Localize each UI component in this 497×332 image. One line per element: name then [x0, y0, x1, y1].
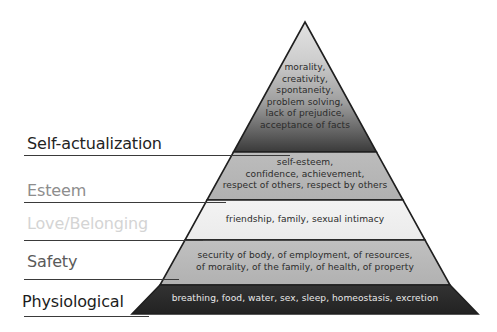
tier-shape-self-actualization [234, 22, 377, 152]
tier-rule-self-actualization [24, 155, 290, 156]
tier-label-esteem: Esteem [27, 181, 86, 200]
tier-label-love-belonging: Love/Belonging [27, 214, 148, 233]
tier-shape-love-belonging [185, 200, 425, 240]
tier-rule-physiological [24, 316, 149, 317]
maslow-hierarchy-diagram: morality, creativity, spontaneity, probl… [0, 0, 497, 332]
tier-rule-esteem [24, 202, 226, 203]
tier-rule-safety [24, 279, 179, 280]
tier-rule-love-belonging [24, 240, 203, 241]
pyramid-graphic [0, 0, 497, 332]
tier-label-physiological: Physiological [22, 292, 124, 311]
tier-shape-esteem [207, 152, 403, 200]
tier-label-self-actualization: Self-actualization [27, 134, 162, 153]
tier-shape-physiological [132, 285, 478, 314]
tier-shape-safety [160, 240, 450, 285]
tier-label-safety: Safety [27, 252, 77, 271]
